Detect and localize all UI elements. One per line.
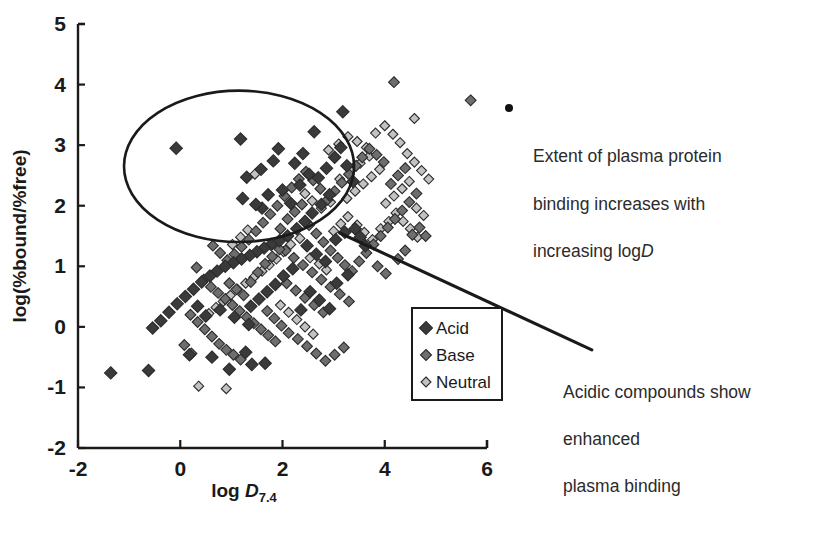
y-tick-label: 5 xyxy=(54,12,66,35)
svg-text:log D7.4: log D7.4 xyxy=(211,480,277,505)
data-point xyxy=(105,367,117,379)
x-tick-label: 0 xyxy=(174,457,186,480)
data-point xyxy=(329,349,340,360)
y-tick-label: -1 xyxy=(47,375,66,398)
legend[interactable]: AcidBaseNeutral xyxy=(412,308,502,400)
data-point xyxy=(358,179,368,189)
legend-label: Neutral xyxy=(436,373,491,392)
y-axis-tick-labels: -2-1012345 xyxy=(47,12,66,459)
x-tick-label: 4 xyxy=(379,457,391,480)
chart-figure: -2-1012345 -20246 log(%bound/%free) log … xyxy=(0,0,826,539)
data-point xyxy=(199,324,210,335)
data-point xyxy=(400,245,411,256)
data-point xyxy=(251,226,262,237)
data-point xyxy=(371,128,381,138)
annotation-binding: Extent of plasma protein binding increas… xyxy=(533,98,813,263)
data-point xyxy=(381,198,391,208)
annotation-acidic-line1: Acidic compounds show xyxy=(563,382,751,402)
data-point xyxy=(267,155,279,167)
data-point xyxy=(272,143,284,155)
data-point xyxy=(372,261,383,272)
y-tick-label: 2 xyxy=(54,194,66,217)
data-point xyxy=(283,328,294,339)
data-point xyxy=(302,341,313,352)
data-point xyxy=(338,342,349,353)
data-point xyxy=(417,166,427,176)
data-point xyxy=(414,222,425,233)
data-point xyxy=(269,313,280,324)
data-point xyxy=(307,267,318,278)
annotation-binding-line1: Extent of plasma protein xyxy=(533,146,722,166)
data-point xyxy=(334,289,345,300)
data-point xyxy=(292,334,303,345)
data-point xyxy=(236,192,248,204)
data-point xyxy=(300,322,310,332)
data-point xyxy=(185,309,196,320)
data-point xyxy=(289,157,301,169)
data-point xyxy=(262,189,274,201)
data-point xyxy=(411,188,422,199)
data-point xyxy=(380,268,391,279)
data-point xyxy=(411,203,421,213)
annotation-binding-line2: binding increases with xyxy=(533,194,705,214)
x-tick-label: 6 xyxy=(481,457,493,480)
data-point xyxy=(272,200,283,211)
data-point xyxy=(419,210,429,220)
data-point xyxy=(191,262,202,273)
legend-label: Acid xyxy=(436,319,469,338)
data-point xyxy=(337,106,349,118)
data-point xyxy=(191,300,203,312)
data-point xyxy=(287,263,299,275)
y-tick-label: 4 xyxy=(54,73,66,96)
data-point xyxy=(424,174,434,184)
data-point xyxy=(311,228,322,239)
y-tick-label: 3 xyxy=(54,133,66,156)
y-tick-label: -2 xyxy=(47,436,66,459)
data-point xyxy=(404,176,414,186)
data-point xyxy=(194,381,204,391)
data-point xyxy=(275,300,285,310)
annotation-binding-line3: increasing log xyxy=(533,241,641,261)
data-point xyxy=(223,363,235,375)
data-point xyxy=(402,149,412,159)
data-point xyxy=(297,147,309,159)
acid-cluster-highlight xyxy=(124,91,354,242)
bullet-icon xyxy=(505,104,513,112)
data-point xyxy=(290,285,301,296)
data-point xyxy=(308,329,318,339)
x-axis-title: log D7.4 xyxy=(211,480,277,505)
annotation-acidic: Acidic compounds show enhanced plasma bi… xyxy=(563,357,813,499)
y-tick-label: 0 xyxy=(54,315,66,338)
data-point xyxy=(350,186,360,196)
data-point xyxy=(397,184,407,194)
data-point xyxy=(393,170,404,181)
data-point xyxy=(206,351,218,363)
data-point xyxy=(297,199,308,210)
data-point xyxy=(352,137,362,147)
data-point xyxy=(354,256,365,267)
data-point xyxy=(259,357,271,369)
data-point xyxy=(170,142,182,154)
data-point xyxy=(288,252,299,263)
data-point xyxy=(207,331,218,342)
data-point xyxy=(388,129,398,139)
data-point xyxy=(318,237,329,248)
annotation-acidic-line2: enhanced xyxy=(563,429,640,449)
data-point xyxy=(234,133,246,145)
data-point xyxy=(343,212,353,222)
data-point xyxy=(320,355,331,366)
data-point xyxy=(389,191,399,201)
data-point xyxy=(246,358,258,370)
data-point xyxy=(332,252,343,263)
annotation-binding-italic: D xyxy=(641,241,654,261)
data-point xyxy=(276,320,287,331)
x-axis-tick-labels: -20246 xyxy=(69,457,493,480)
data-point xyxy=(284,307,294,317)
data-point xyxy=(400,163,411,174)
data-point xyxy=(282,214,293,225)
data-point xyxy=(465,95,476,106)
data-point xyxy=(366,172,376,182)
data-point xyxy=(395,138,405,148)
annotation-acidic-line3: plasma binding xyxy=(563,476,681,496)
data-point xyxy=(420,231,431,242)
